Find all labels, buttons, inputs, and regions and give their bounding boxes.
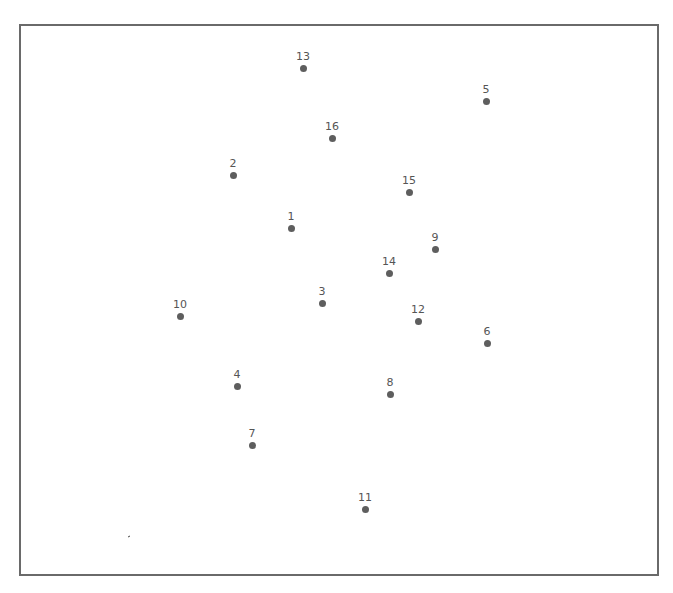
- point-label: 7: [249, 428, 256, 439]
- plot-frame: [19, 24, 659, 576]
- point-marker: [288, 225, 295, 232]
- point-label: 2: [230, 158, 237, 169]
- point-marker: [432, 246, 439, 253]
- point-marker: [230, 172, 237, 179]
- point-label: 1: [288, 211, 295, 222]
- point-label: 16: [325, 121, 339, 132]
- point-label: 12: [411, 304, 425, 315]
- point-marker: [329, 135, 336, 142]
- point-marker: [249, 442, 256, 449]
- point-label: 8: [387, 377, 394, 388]
- point-marker: [484, 340, 491, 347]
- point-label: 5: [483, 84, 490, 95]
- point-label: 9: [432, 232, 439, 243]
- point-marker: [177, 313, 184, 320]
- point-marker: [483, 98, 490, 105]
- point-label: 15: [402, 175, 416, 186]
- point-marker: [386, 270, 393, 277]
- point-marker: [406, 189, 413, 196]
- point-label: 11: [358, 492, 372, 503]
- point-label: 14: [382, 256, 396, 267]
- point-marker: [234, 383, 241, 390]
- point-marker: [319, 300, 326, 307]
- point-label: 13: [296, 51, 310, 62]
- point-marker: [387, 391, 394, 398]
- point-marker: [415, 318, 422, 325]
- point-label: 3: [319, 286, 326, 297]
- point-label: 4: [234, 369, 241, 380]
- point-label: 6: [484, 326, 491, 337]
- point-label: 10: [173, 299, 187, 310]
- point-marker: [362, 506, 369, 513]
- point-marker: [300, 65, 307, 72]
